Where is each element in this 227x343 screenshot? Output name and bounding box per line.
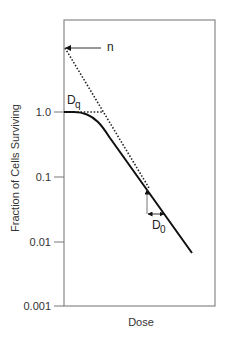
y-tick-label-0-01: 0.01 (30, 236, 51, 248)
survival-curve-chart: 1.0 0.1 0.01 0.001 Dose Fraction of Cell… (0, 0, 227, 343)
y-tick-label-0-001: 0.001 (23, 300, 51, 312)
n-label: n (107, 40, 114, 54)
y-axis-label: Fraction of Cells Surviving (9, 104, 21, 232)
svg-text:q: q (75, 99, 81, 110)
y-tick-label-0-1: 0.1 (36, 171, 51, 183)
y-axis-ticks (54, 112, 64, 306)
extrapolation-dotted-line (65, 48, 149, 188)
survival-curve (64, 112, 192, 253)
svg-text:0: 0 (160, 224, 166, 235)
x-axis-label: Dose (128, 316, 154, 328)
y-tick-label-1: 1.0 (36, 106, 51, 118)
dq-label: D q (67, 93, 81, 110)
plot-frame (64, 20, 215, 306)
d0-label: D 0 (152, 218, 166, 235)
